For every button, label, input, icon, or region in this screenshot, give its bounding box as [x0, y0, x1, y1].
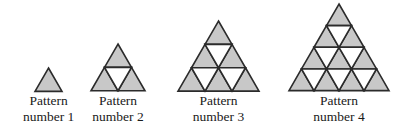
pattern-1-triangle-stack — [35, 68, 62, 91]
pattern-3-triangle-stack — [178, 21, 259, 91]
pattern-4: Patternnumber 4 — [289, 4, 389, 124]
pattern-2-caption: Patternnumber 2 — [92, 93, 143, 124]
unit-triangle-up — [327, 4, 352, 26]
pattern-1-caption-line-1: Pattern — [23, 93, 74, 109]
pattern-3-caption-line-1: Pattern — [193, 93, 244, 109]
pattern-3-caption: Patternnumber 3 — [193, 93, 244, 124]
unit-triangle-up — [105, 44, 132, 67]
pattern-2: Patternnumber 2 — [91, 44, 145, 124]
pattern-2-triangle-stack — [91, 44, 145, 91]
pattern-1-caption: Patternnumber 1 — [23, 93, 74, 124]
pattern-4-caption-line-2: number 4 — [313, 109, 364, 125]
pattern-3: Patternnumber 3 — [178, 21, 259, 124]
pattern-4-triangle-stack — [289, 4, 389, 91]
pattern-3-caption-line-2: number 3 — [193, 109, 244, 125]
triangular-pattern-figure: Patternnumber 1Patternnumber 2Patternnum… — [0, 0, 396, 124]
pattern-4-caption: Patternnumber 4 — [313, 93, 364, 124]
pattern-1: Patternnumber 1 — [23, 68, 74, 124]
unit-triangle-up — [205, 21, 232, 44]
pattern-4-caption-line-1: Pattern — [313, 93, 364, 109]
unit-triangle-up — [35, 68, 62, 91]
pattern-2-caption-line-2: number 2 — [92, 109, 143, 125]
pattern-2-caption-line-1: Pattern — [92, 93, 143, 109]
pattern-1-caption-line-2: number 1 — [23, 109, 74, 125]
